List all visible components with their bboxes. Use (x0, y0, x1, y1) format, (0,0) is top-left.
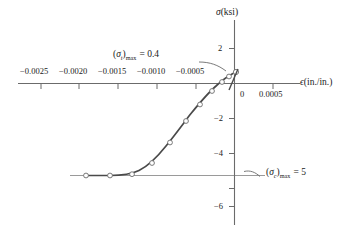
data-point (227, 74, 232, 79)
x-axis-ticks (41, 84, 273, 90)
data-point (130, 172, 135, 177)
y-tick-label-neg2: −2 (214, 114, 223, 123)
data-point (220, 80, 225, 85)
y-tick-label-2: 2 (218, 44, 222, 53)
x-tick-label-2: −0.0020 (59, 67, 87, 76)
annotation-compressive-value: = 5 (293, 167, 305, 177)
data-point (108, 173, 113, 178)
data-point (168, 140, 173, 145)
annotation-tensile-value: = 0.4 (139, 49, 159, 59)
data-point (198, 102, 203, 107)
annotation-tensile-max: (σt)max= 0.4 (113, 50, 159, 61)
y-tick-label-neg4: −4 (214, 149, 223, 158)
data-point (84, 173, 89, 178)
y-axis-unit: (ksi) (221, 7, 238, 17)
x-axis-unit: (in./in.) (304, 77, 333, 87)
data-point (184, 119, 189, 124)
x-tick-label-origin: 0 (240, 90, 244, 99)
x-tick-label-4: −0.0010 (137, 67, 165, 76)
x-tick-label-1: −0.0025 (20, 67, 48, 76)
stress-strain-chart: σ(ksi) ϵ(in./in.) −0.0025 −0.0020 −0.001… (0, 0, 349, 237)
x-tick-label-3: −0.0015 (98, 67, 126, 76)
annotation-compressive-sub-max: max (280, 172, 291, 179)
chart-svg (0, 0, 349, 237)
annotation-tensile-sub-max: max (126, 54, 137, 61)
y-axis-title: σ(ksi) (216, 8, 238, 18)
x-tick-label-5: −0.0005 (176, 67, 204, 76)
annotation-compressive-max: (σc)max= 5 (266, 168, 306, 179)
data-point (150, 161, 155, 166)
y-tick-label-neg6: −6 (214, 202, 223, 211)
data-point (210, 89, 215, 94)
x-axis-title: ϵ(in./in.) (300, 78, 332, 88)
x-tick-label-6: 0.0005 (259, 90, 282, 99)
